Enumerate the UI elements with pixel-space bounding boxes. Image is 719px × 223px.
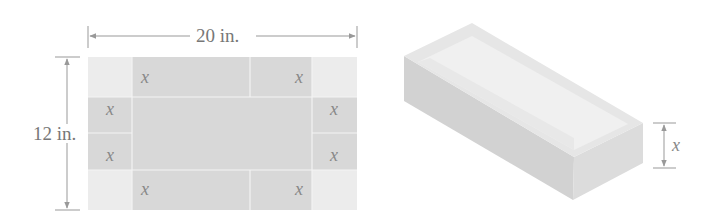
corner-label-7: x — [141, 180, 149, 198]
corner-square-br — [312, 170, 357, 210]
corner-label-5: x — [106, 146, 114, 164]
corner-label-8: x — [295, 180, 303, 198]
folded-box — [404, 23, 643, 200]
corner-label-4: x — [330, 100, 338, 118]
corner-label-6: x — [330, 146, 338, 164]
corner-square-tr — [312, 57, 357, 97]
corner-square-bl — [88, 170, 132, 210]
flat-sheet — [88, 57, 357, 210]
corner-label-1: x — [141, 68, 149, 86]
corner-label-3: x — [106, 100, 114, 118]
open-box-diagram: 20 in. 12 in. x x x x x x x x x — [0, 0, 719, 223]
height-label: 12 in. — [30, 124, 79, 143]
corner-square-tl — [88, 57, 132, 97]
corner-label-2: x — [295, 68, 303, 86]
box-height-label: x — [672, 136, 680, 154]
width-label: 20 in. — [193, 26, 242, 45]
